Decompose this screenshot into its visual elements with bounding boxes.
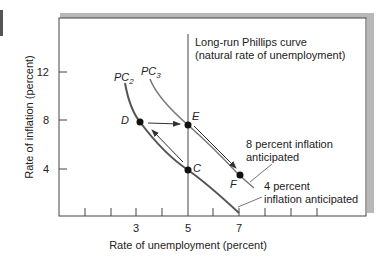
point-d	[137, 119, 144, 126]
point-e-label: E	[192, 110, 200, 122]
lrpc-label-line2: (natural rate of unemployment)	[195, 49, 345, 61]
point-c-label: C	[193, 162, 201, 174]
x-tick-3: 3	[133, 222, 139, 234]
frame-shadow-right	[367, 13, 374, 213]
x-tick-5: 5	[185, 222, 191, 234]
y-tick-8: 8	[43, 114, 49, 126]
x-axis-label: Rate of unemployment (percent)	[109, 239, 267, 251]
point-f	[237, 172, 244, 179]
lrpc-label-line1: Long-run Phillips curve	[195, 36, 307, 48]
edge-artifact	[0, 10, 3, 36]
y-axis-label: Rate of inflation (percent)	[23, 55, 35, 179]
point-e	[185, 122, 192, 129]
point-d-label: D	[121, 114, 129, 126]
annotation-8pct-line2: anticipated	[246, 151, 299, 163]
x-tick-7: 7	[236, 222, 242, 234]
point-c	[185, 167, 192, 174]
annotation-4pct-line2: inflation anticipated	[264, 193, 358, 205]
y-tick-4: 4	[43, 163, 49, 175]
phillips-curve-chart: 12 8 4 3 5 7 Rate of unemployment (perce…	[0, 0, 388, 257]
annotation-4pct-line1: 4 percent	[264, 180, 310, 192]
y-tick-12: 12	[37, 66, 49, 78]
annotation-8pct-line1: 8 percent inflation	[246, 138, 333, 150]
